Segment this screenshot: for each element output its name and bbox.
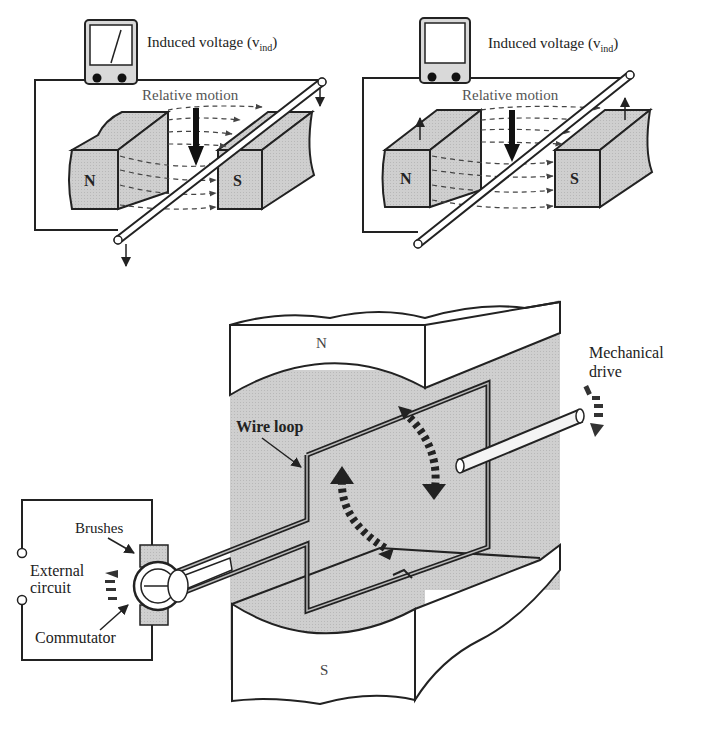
brushes-label: Brushes — [75, 520, 123, 536]
external-circuit-label: External — [30, 562, 85, 579]
panel-dc-generator: N S — [18, 300, 665, 704]
mechanical-drive-label-line2: drive — [589, 363, 622, 380]
panel-moving-magnet-zero: Induced voltage (vind) Relative motion N… — [363, 18, 652, 248]
commutator-pointer — [100, 605, 128, 630]
commutator-label: Commutator — [35, 629, 117, 646]
relative-motion-label: Relative motion — [462, 87, 559, 103]
mechanical-drive-label: Mechanical — [589, 344, 664, 361]
induced-voltage-label: Induced voltage (vind) — [488, 35, 618, 54]
relative-motion-label: Relative motion — [142, 87, 239, 103]
svg-text:S: S — [233, 172, 242, 189]
brushes-pointer — [108, 538, 134, 553]
voltmeter-icon — [420, 18, 470, 83]
induced-voltage-label: Induced voltage (vind) — [147, 34, 277, 53]
external-circuit-label-line2: circuit — [30, 579, 71, 596]
mechanical-drive-arrow-icon — [583, 385, 604, 437]
svg-text:N: N — [84, 172, 96, 189]
svg-text:N: N — [400, 170, 412, 187]
svg-text:S: S — [320, 662, 328, 678]
wire-loop-label: Wire loop — [236, 418, 304, 436]
svg-text:S: S — [570, 170, 579, 187]
svg-text:N: N — [316, 335, 327, 351]
current-arrow-icon — [105, 570, 118, 600]
relative-motion-arrow — [188, 108, 204, 166]
north-magnet: N — [383, 110, 482, 207]
panel-moving-conductor-deflected: Induced voltage (vind) Relative motion N… — [35, 20, 326, 266]
voltmeter-icon — [85, 20, 137, 84]
generator-diagram: Induced voltage (vind) Relative motion N… — [0, 0, 705, 731]
terminal-icon — [18, 596, 27, 605]
terminal-icon — [18, 549, 27, 558]
north-magnet: N — [69, 112, 168, 209]
